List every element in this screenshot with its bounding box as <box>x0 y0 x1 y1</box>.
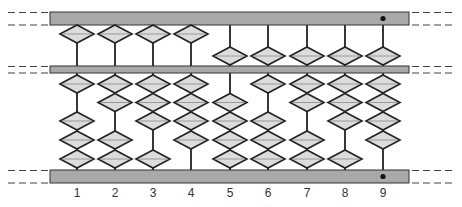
rod-label: 3 <box>143 186 163 200</box>
rod-label: 8 <box>335 186 355 200</box>
unit-rod-marker-dot <box>380 16 385 21</box>
rod-label: 2 <box>105 186 125 200</box>
abacus-diagram <box>0 0 462 207</box>
rod-label: 6 <box>258 186 278 200</box>
rod-label: 9 <box>373 186 393 200</box>
rod-label: 1 <box>67 186 87 200</box>
rod-label: 7 <box>297 186 317 200</box>
top-frame-bar <box>50 12 409 25</box>
rod-label: 5 <box>220 186 240 200</box>
unit-rod-marker-dot <box>380 174 385 179</box>
bottom-frame-bar <box>50 170 409 183</box>
reckoning-beam <box>50 66 409 73</box>
rod-label: 4 <box>181 186 201 200</box>
